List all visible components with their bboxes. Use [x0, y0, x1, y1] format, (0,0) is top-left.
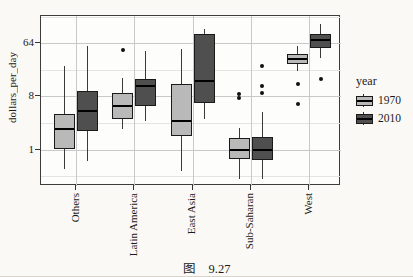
outlier-2010-Sub-Saharan [260, 64, 264, 68]
figure-9-27: dollars_per_day 1864OthersLatin AmericaE… [0, 0, 413, 277]
median-2010-Others [78, 110, 97, 112]
x-tick-mark [250, 185, 251, 190]
median-1970-Latin America [113, 105, 132, 107]
y-tick-mark [35, 42, 40, 43]
legend-entry-label: 1970 [378, 94, 401, 107]
y-tick-mark [35, 149, 40, 150]
x-tick-mark [192, 185, 193, 190]
outlier-2010-Sub-Saharan [260, 91, 264, 95]
y-tick-label: 64 [12, 36, 34, 48]
y-tick-label: 8 [12, 89, 34, 101]
outlier-1970-Sub-Saharan [237, 96, 241, 100]
gridline-minor [41, 176, 341, 177]
outlier-1970-West [296, 82, 300, 86]
median-1970-East Asia [172, 120, 191, 122]
y-tick-mark [35, 95, 40, 96]
key-median [357, 118, 372, 120]
box-2010-East Asia [194, 34, 215, 103]
x-tick-label: East Asia [185, 193, 198, 234]
caption-number: 9.27 [209, 262, 231, 276]
legend-entry-1970: 1970 [356, 93, 401, 107]
median-2010-East Asia [195, 80, 214, 82]
median-1970-Sub-Saharan [230, 149, 249, 151]
x-tick-mark [308, 185, 309, 190]
box-2010-West [310, 34, 331, 48]
x-tick-mark [133, 185, 134, 190]
x-tick-mark [75, 185, 76, 190]
legend-entries: 19702010 [356, 93, 401, 125]
gridline-vertical [251, 16, 252, 186]
plot-panel [40, 15, 340, 185]
y-axis-title: dollars_per_day [6, 52, 18, 123]
gridline-minor [41, 70, 341, 71]
legend: year 19702010 [356, 74, 401, 129]
outlier-1970-Latin America [121, 48, 125, 52]
key-median [357, 100, 372, 102]
outlier-2010-West [319, 77, 323, 81]
gridline-major [41, 150, 341, 151]
legend-entry-label: 2010 [378, 112, 401, 125]
median-2010-West [311, 39, 330, 41]
box-1970-Others [54, 114, 75, 149]
legend-entry-2010: 2010 [356, 111, 401, 125]
median-2010-Sub-Saharan [253, 149, 272, 151]
box-1970-East Asia [171, 84, 192, 136]
box-2010-Latin America [135, 79, 156, 106]
median-1970-Others [55, 128, 74, 130]
boxplot-key-icon [356, 112, 372, 125]
caption-prefix: 图 [183, 262, 196, 276]
median-1970-West [288, 58, 307, 60]
gridline-minor [41, 17, 341, 18]
x-tick-label: West [302, 193, 315, 215]
y-tick-label: 1 [12, 143, 34, 155]
x-tick-label: Latin America [127, 193, 140, 256]
median-2010-Latin America [136, 85, 155, 87]
boxplot-key-icon [356, 94, 372, 107]
outlier-1970-West [296, 102, 300, 106]
gridline-major [41, 43, 341, 44]
figure-caption: 图9.27 [0, 258, 413, 277]
legend-title: year [356, 74, 401, 89]
x-tick-label: Others [69, 193, 82, 222]
outlier-2010-Sub-Saharan [260, 84, 264, 88]
x-tick-label: Sub-Saharan [243, 193, 256, 249]
